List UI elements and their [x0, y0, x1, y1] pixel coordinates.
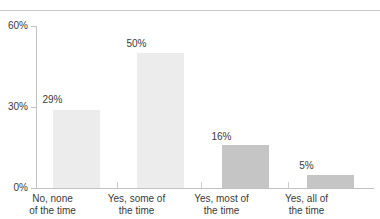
category-label-1: Yes, some of the time: [97, 193, 176, 217]
bar-chart: 0% 30% 60% 29% 50% 16% 5% No, none of th…: [0, 0, 380, 219]
y-tick-label-60: 60%: [0, 21, 28, 31]
bar-1: [137, 53, 184, 188]
category-label-3: Yes, all of the time: [267, 193, 346, 217]
category-label-2-line-2: the time: [182, 205, 261, 217]
category-label-3-line-2: the time: [267, 205, 346, 217]
bar-value-label-3: 5%: [283, 160, 330, 171]
bar-value-label-1: 50%: [113, 38, 160, 49]
category-label-1-line-2: the time: [97, 205, 176, 217]
category-label-2-line-1: Yes, most of: [182, 193, 261, 205]
x-axis-line: [36, 188, 374, 189]
category-label-0-line-1: No, none: [13, 193, 92, 205]
bar-value-label-2: 16%: [198, 131, 245, 142]
category-label-3-line-1: Yes, all of: [267, 193, 346, 205]
bar-2: [222, 145, 269, 188]
category-label-0: No, none of the time: [13, 193, 92, 217]
y-tick-label-0: 0%: [0, 183, 28, 193]
bar-0: [53, 110, 100, 188]
bar-value-label-0: 29%: [29, 94, 76, 105]
category-label-2: Yes, most of the time: [182, 193, 261, 217]
top-divider-rule: [0, 10, 380, 11]
bar-3: [307, 175, 354, 189]
y-tick-label-30: 30%: [0, 102, 28, 112]
category-label-0-line-2: of the time: [13, 205, 92, 217]
category-label-1-line-1: Yes, some of: [97, 193, 176, 205]
